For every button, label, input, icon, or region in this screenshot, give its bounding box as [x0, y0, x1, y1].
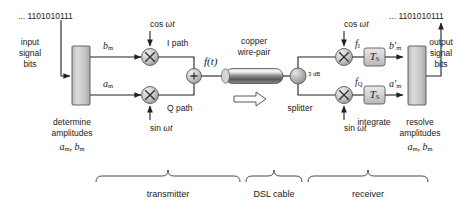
resolve-amplitudes-block: [408, 46, 426, 105]
tx-label-am: am: [103, 78, 113, 91]
integrate-caption: integrate: [357, 117, 390, 127]
diagram-canvas: ... 1101010111 input signal bits determi…: [0, 0, 458, 210]
section-label-transmitter: transmitter: [147, 189, 190, 199]
tx-label-bm: bm: [103, 40, 113, 53]
rx-label-am-prime: a'm: [389, 78, 401, 91]
cable-caption-1: copper: [241, 36, 267, 46]
resolve-amplitudes-caption-1: resolve: [406, 117, 433, 127]
output-signal-label-line3: bits: [434, 59, 447, 69]
input-signal-path: [61, 20, 70, 76]
rx-fq-label: fQ: [355, 76, 362, 89]
rx-fi-label: fI: [355, 38, 360, 51]
brace-receiver: [308, 170, 428, 182]
determine-amplitudes-caption-2: amplitudes: [51, 128, 92, 138]
input-bits-label: ... 1101010111: [18, 11, 73, 21]
determine-amplitudes-math: am, bm: [59, 141, 84, 154]
splitter-node: [290, 68, 306, 84]
resolve-amplitudes-math: am, bm: [407, 141, 432, 154]
tx-amp-a: am: [59, 141, 69, 152]
i-path-label: I path: [167, 38, 188, 48]
section-label-dsl-cable: DSL cable: [253, 189, 294, 199]
brace-dsl-cable: [246, 170, 302, 182]
output-signal-label-line2: signal: [430, 48, 452, 58]
tx-amp-b: bm: [75, 141, 85, 152]
determine-amplitudes-block: [72, 46, 90, 105]
rx-label-bm-prime: b'm: [389, 40, 401, 53]
transmitter-branch-lines: [90, 57, 141, 95]
diagram-vector-layer: [0, 0, 458, 210]
ft-label: f(t): [204, 56, 217, 67]
q-path-label: Q path: [167, 103, 193, 113]
rx-amp-b: bm: [423, 141, 433, 152]
resolve-amplitudes-caption-2: amplitudes: [399, 128, 440, 138]
splitter-label: splitter: [287, 103, 312, 113]
output-bits-label: ... 1101010111: [389, 11, 444, 21]
section-label-receiver: receiver: [352, 189, 384, 199]
input-signal-label-line3: bits: [23, 59, 36, 69]
cable-caption-2: wire-pair: [238, 47, 271, 57]
input-signal-label-line2: signal: [19, 48, 41, 58]
copper-wire-pair: [225, 69, 283, 84]
integrator-label-i: TS: [370, 51, 380, 64]
rx-cos-carrier-label: cos ωt: [344, 19, 369, 29]
integrator-label-q: TS: [370, 89, 380, 102]
tx-sin-carrier-label: sin ωt: [150, 123, 173, 133]
cable-direction-arrow: [234, 92, 266, 106]
splitter-loss-label: 3 dB: [308, 71, 320, 77]
output-signal-label-line1: output: [429, 37, 453, 47]
tx-cos-carrier-label: cos ωt: [150, 19, 175, 29]
brace-transmitter: [96, 170, 240, 182]
rx-amp-a: am: [407, 141, 417, 152]
input-signal-label-line1: input: [21, 37, 39, 47]
determine-amplitudes-caption-1: determine: [53, 117, 91, 127]
cable-left-cap: [222, 69, 230, 83]
